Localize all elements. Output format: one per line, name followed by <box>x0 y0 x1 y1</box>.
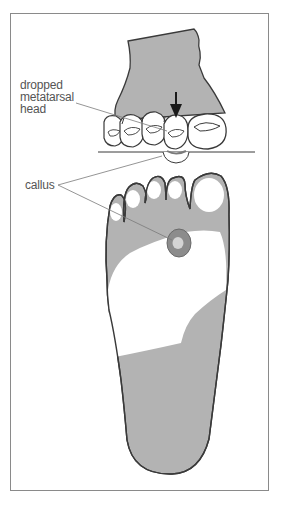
label-dropped-metatarsal-head: dropped metatarsal head <box>20 79 74 115</box>
leader-callus-top <box>58 156 162 185</box>
front-foot-view <box>98 29 255 163</box>
label-line: callus <box>25 179 54 191</box>
label-line: head <box>20 103 74 115</box>
label-callus: callus <box>25 179 54 191</box>
foot-body-front <box>115 29 225 120</box>
callus <box>167 229 191 257</box>
foot-illustration <box>0 0 284 506</box>
callus-center <box>173 237 184 249</box>
toe <box>142 112 166 145</box>
big-toe <box>188 114 226 149</box>
dropped-toe <box>164 115 188 149</box>
sole-view <box>106 173 229 474</box>
